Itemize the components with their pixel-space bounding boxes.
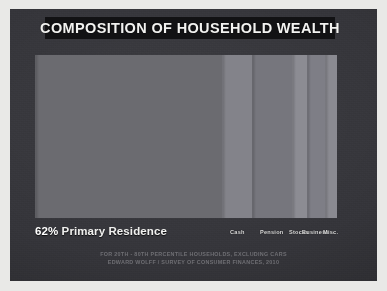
- bar-segment-primary-residence: [35, 55, 222, 218]
- page-title: COMPOSITION OF HOUSEHOLD WEALTH: [40, 20, 340, 36]
- bar-segment-business: [307, 55, 325, 218]
- footer-credits: FOR 20TH - 80TH PERCENTILE HOUSEHOLDS, E…: [10, 250, 377, 266]
- bar-segment-stocks: [292, 55, 307, 218]
- bar-segment-cash: [222, 55, 252, 218]
- label-primary-residence: 62% Primary Residence: [35, 225, 167, 237]
- footer-attribution: EDWARD WOLFF / SURVEY OF CONSUMER FINANC…: [10, 258, 377, 266]
- chart-title-bar: COMPOSITION OF HOUSEHOLD WEALTH: [45, 17, 335, 39]
- poster-page: COMPOSITION OF HOUSEHOLD WEALTH 62% Prim…: [0, 0, 387, 291]
- bar-segment-pension: [252, 55, 291, 218]
- poster-panel: COMPOSITION OF HOUSEHOLD WEALTH 62% Prim…: [10, 9, 377, 281]
- primary-residence-name: Primary Residence: [58, 225, 167, 237]
- stacked-bar-chart: [35, 55, 337, 218]
- label-cash: Cash: [230, 229, 245, 235]
- bar-segment-misc: [325, 55, 337, 218]
- label-pension: Pension: [260, 229, 284, 235]
- footer-source-note: FOR 20TH - 80TH PERCENTILE HOUSEHOLDS, E…: [10, 250, 377, 258]
- bar-label-row: 62% Primary Residence Cash Pension Stock…: [10, 225, 377, 243]
- primary-residence-percent: 62%: [35, 225, 58, 237]
- label-misc: Misc.: [323, 229, 338, 235]
